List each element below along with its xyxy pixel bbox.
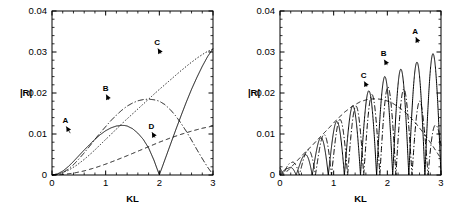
y-tick-label: 0.01	[29, 128, 48, 139]
curve-annotation-C: C	[361, 71, 367, 80]
x-tick-label: 1	[331, 177, 336, 188]
chart-panel-left: 012300.010.020.030.04KL|R|ABCD	[0, 0, 228, 212]
y-tick-label: 0	[270, 169, 275, 180]
annotation-arrow-A	[66, 126, 71, 132]
y-tick-label: 0.01	[257, 128, 276, 139]
annotation-arrow-C	[158, 49, 163, 55]
y-tick-label: 0	[42, 169, 47, 180]
y-axis-label: |R|	[20, 87, 32, 98]
plot-frame	[52, 11, 213, 175]
x-tick-label: 2	[385, 177, 390, 188]
curve-annotation-B: B	[103, 84, 109, 93]
curve-B	[280, 87, 441, 175]
curve-D	[52, 126, 213, 175]
curve-annotation-A: A	[412, 27, 418, 36]
y-tick-label: 0.04	[29, 5, 48, 16]
curve-A	[52, 49, 213, 175]
curve-annotation-D: D	[148, 122, 154, 131]
curve-C	[52, 49, 213, 175]
left-plot-svg: 012300.010.020.030.04KL|R|ABCD	[0, 0, 228, 212]
plot-frame	[280, 11, 441, 175]
chart-panel-right: 012300.010.020.030.04KL|R|ABC	[228, 0, 456, 212]
x-tick-label: 3	[210, 177, 215, 188]
x-tick-label: 2	[157, 177, 162, 188]
y-axis-label: |R|	[248, 87, 260, 98]
x-tick-label: 0	[49, 177, 54, 188]
figure-container: 012300.010.020.030.04KL|R|ABCD 012300.01…	[0, 0, 456, 212]
curve-annotation-A: A	[63, 116, 69, 125]
y-tick-label: 0.03	[29, 46, 48, 57]
x-axis-label: KL	[354, 193, 367, 204]
curve-B	[52, 99, 213, 175]
y-tick-label: 0.03	[257, 46, 276, 57]
x-tick-label: 0	[277, 177, 282, 188]
curve-annotation-B: B	[381, 49, 387, 58]
y-tick-label: 0.04	[257, 5, 276, 16]
curve-annotation-C: C	[154, 38, 160, 47]
x-axis-label: KL	[126, 193, 139, 204]
right-plot-svg: 012300.010.020.030.04KL|R|ABC	[228, 0, 456, 212]
x-tick-label: 3	[438, 177, 443, 188]
x-tick-label: 1	[103, 177, 108, 188]
